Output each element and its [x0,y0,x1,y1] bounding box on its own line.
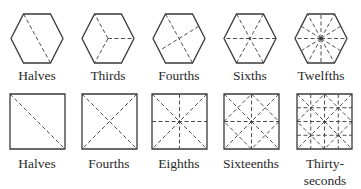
hexagon-4 [153,14,205,63]
label-hex-fourths: Fourths [139,68,219,84]
label-sq-fourths: Fourths [69,156,149,172]
square-2 [10,94,65,149]
square-row [10,94,352,149]
label-sq-eighths: Eighths [139,156,219,172]
label-sq-seconds: seconds [285,173,361,189]
square-4 [82,94,137,149]
label-hex-thirds: Thirds [68,68,148,84]
square-8 [152,94,207,149]
label-sq-halves: Halves [0,156,77,172]
hexagon-6 [224,14,276,63]
hexagon-2 [11,14,63,63]
label-hex-twelfths: Twelfths [281,68,361,84]
hexagon-row [11,14,347,63]
hexagon-12 [295,14,347,63]
label-sq-sixteenths: Sixteenths [211,156,291,172]
label-hex-halves: Halves [0,68,77,84]
label-hex-sixths: Sixths [210,68,290,84]
hexagon-3 [82,14,134,63]
square-16 [224,94,279,149]
square-32 [297,94,352,149]
label-sq-thirty: Thirty- [285,156,361,172]
